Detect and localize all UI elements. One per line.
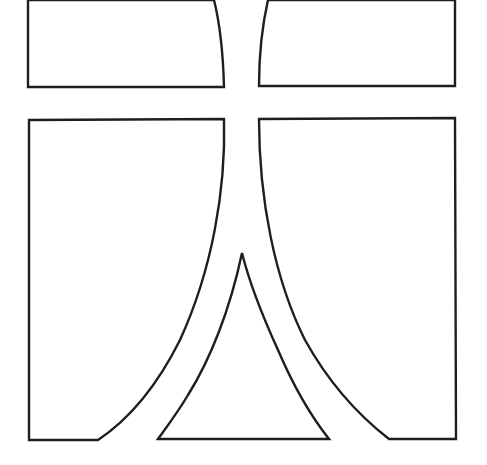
cross-template-diagram (0, 0, 487, 465)
top-left-panel (28, 0, 224, 87)
top-right-panel (259, 0, 455, 86)
